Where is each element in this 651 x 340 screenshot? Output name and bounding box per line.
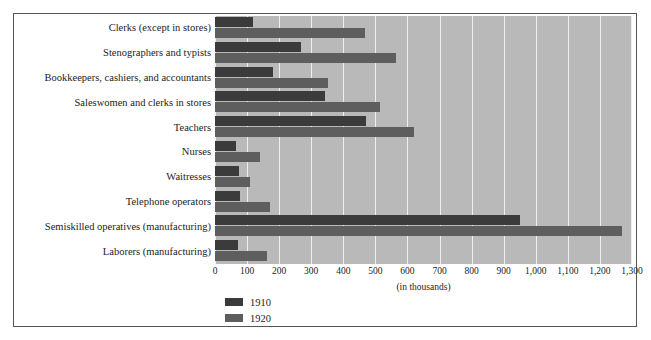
x-tick-label: 1,100 (557, 266, 578, 276)
bar-1910 (215, 191, 240, 201)
x-tick-label: 1,000 (525, 266, 546, 276)
bar-1910 (215, 240, 238, 250)
x-tick-label: 300 (304, 266, 318, 276)
bar-1920 (215, 177, 250, 187)
bar-group (215, 41, 632, 66)
legend-item-1920[interactable]: 1920 (225, 311, 271, 325)
plot-area (215, 16, 632, 264)
bar-1920 (215, 53, 396, 63)
bar-1910 (215, 141, 236, 151)
bar-1910 (215, 67, 273, 77)
chart-legend: 19101920 (225, 295, 271, 327)
chart-figure: Clerks (except in stores)Stenographers a… (13, 13, 637, 327)
bar-group (215, 190, 632, 215)
bar-1910 (215, 42, 301, 52)
x-tick-label: 900 (497, 266, 511, 276)
bar-1920 (215, 152, 260, 162)
x-tick-label: 200 (272, 266, 286, 276)
x-tick-label: 100 (240, 266, 254, 276)
bar-1920 (215, 127, 414, 137)
bar-1920 (215, 226, 622, 236)
bar-1920 (215, 202, 270, 212)
bar-1920 (215, 251, 267, 261)
bar-1920 (215, 78, 328, 88)
category-label: Stenographers and typists (103, 47, 211, 58)
bar-group (215, 90, 632, 115)
category-label: Telephone operators (126, 196, 211, 207)
bar-1920 (215, 28, 365, 38)
bar-1910 (215, 166, 239, 176)
bar-group (215, 165, 632, 190)
legend-label: 1920 (250, 313, 271, 324)
x-tick-label: 1,300 (621, 266, 642, 276)
bar-1910 (215, 91, 325, 101)
legend-swatch-icon (225, 298, 243, 306)
x-axis-title: (in thousands) (215, 282, 632, 292)
category-label: Clerks (except in stores) (109, 22, 211, 33)
x-tick-label: 800 (464, 266, 478, 276)
bar-1910 (215, 116, 366, 126)
x-tick-label: 700 (432, 266, 446, 276)
category-label-column: Clerks (except in stores)Stenographers a… (14, 16, 214, 264)
x-tick-label: 600 (400, 266, 414, 276)
category-label: Teachers (174, 122, 211, 133)
bar-group (215, 140, 632, 165)
bar-1910 (215, 17, 253, 27)
bar-group (215, 214, 632, 239)
category-label: Bookkeepers, cashiers, and accountants (45, 72, 211, 83)
category-label: Saleswomen and clerks in stores (75, 97, 211, 108)
x-tick-label: 500 (368, 266, 382, 276)
category-label: Laborers (manufacturing) (103, 246, 211, 257)
x-tick-label: 1,200 (589, 266, 610, 276)
x-axis: 01002003004005006007008009001,0001,1001,… (215, 264, 632, 280)
x-tick-label: 0 (213, 266, 218, 276)
bar-group (215, 16, 632, 41)
category-label: Waitresses (166, 171, 211, 182)
bar-1920 (215, 102, 380, 112)
category-label: Semiskilled operatives (manufacturing) (45, 221, 211, 232)
category-label: Nurses (182, 146, 211, 157)
bar-group (215, 239, 632, 264)
legend-label: 1910 (250, 297, 271, 308)
x-tick-label: 400 (336, 266, 350, 276)
legend-swatch-icon (225, 314, 243, 322)
bar-group (215, 66, 632, 91)
bar-group (215, 115, 632, 140)
bar-1910 (215, 215, 520, 225)
legend-item-1910[interactable]: 1910 (225, 295, 271, 309)
